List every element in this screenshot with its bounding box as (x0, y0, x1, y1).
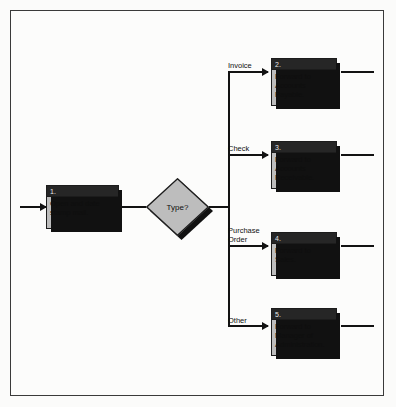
process-box-5-number: 5. (272, 309, 336, 320)
process-box-2-number: 2. (272, 59, 336, 70)
process-box-4[interactable]: 4. Forward to Sales. (271, 232, 337, 276)
box3-outgoing-line (341, 154, 374, 156)
process-box-1-text: Open and date stamp mail. (47, 197, 118, 217)
decision-to-trunk-line (209, 206, 230, 208)
box2-outgoing-line (341, 71, 374, 73)
box4-outgoing-line (341, 245, 374, 247)
branch-arrowhead-other (262, 322, 269, 330)
process-box-3-text: Forward to Accounts Receivable. (272, 153, 336, 183)
process-box-5-text: Forward to Manager of Administration. (272, 320, 336, 350)
process-box-4-text: Forward to Sales. (272, 244, 336, 264)
box5-outgoing-line (341, 325, 374, 327)
process-box-4-number: 4. (272, 233, 336, 244)
process-box-3[interactable]: 3. Forward to Accounts Receivable. (271, 141, 337, 189)
branch-label-other: Other (228, 316, 247, 325)
process-box-5[interactable]: 5. Forward to Manager of Administration. (271, 308, 337, 356)
decision-diamond-label: Type? (146, 178, 209, 236)
decision-diamond[interactable]: Type? (146, 178, 209, 236)
branch-trunk-line (228, 72, 230, 326)
process-box-3-number: 3. (272, 142, 336, 153)
branch-label-check: Check (228, 144, 249, 153)
process-box-2-text: Forward to Accounts Payable. (272, 70, 336, 100)
process-box-1[interactable]: 1. Open and date stamp mail. (46, 185, 119, 229)
branch-arrowhead-purchase-order (262, 242, 269, 250)
box1-to-decision-line (119, 206, 146, 208)
process-box-1-number: 1. (47, 186, 118, 197)
process-box-2[interactable]: 2. Forward to Accounts Payable. (271, 58, 337, 106)
branch-label-invoice: Invoice (228, 61, 252, 70)
branch-arrowhead-invoice (262, 68, 269, 76)
branch-label-purchase-order: Purchase Order (228, 226, 260, 244)
flowchart-diagram: 1. Open and date stamp mail. Type? Invoi… (0, 0, 396, 407)
branch-arrowhead-check (262, 151, 269, 159)
